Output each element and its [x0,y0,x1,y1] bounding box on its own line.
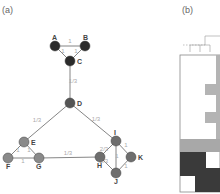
matrix-block [180,139,220,152]
edge-weight-label: 1/3 [33,117,42,123]
node-label-B: B [83,34,88,41]
node-A [50,41,60,51]
node-I [111,136,121,146]
node-label-E: E [31,139,36,146]
edge-weight-label: 1/3 [92,116,101,122]
node-K [126,152,136,162]
edge-weight-label: 1 [16,147,20,153]
node-B [80,41,90,51]
edge-weight-label: 1 [68,38,72,44]
edge-weight-label: 2/3 [100,146,109,152]
network-graph: 1111/31/31/31111/32/32/3111 ABCDEFGIHKJ [0,0,220,194]
dendrogram [183,36,220,52]
edge-weight-label: 1 [115,153,119,159]
node-J [111,168,121,178]
node-label-C: C [77,58,82,65]
edge-weight-label: 1 [27,147,31,153]
node-label-A: A [52,34,57,41]
node-E [19,137,29,147]
node-C [65,56,75,66]
edge-weight-label: 1 [124,142,128,148]
edge-D-I [70,103,116,141]
node-F [3,153,13,163]
adjacency-matrix [180,55,220,192]
node-H [95,152,105,162]
edge-weight-label: 1 [61,48,65,54]
edge-weight-label: 1 [124,163,128,169]
edge-weight-label: 1/3 [64,150,73,156]
node-G [34,153,44,163]
node-label-F: F [6,163,11,170]
edge-D-E [24,103,70,142]
matrix-block [216,55,220,139]
node-D [65,98,75,108]
node-label-J: J [114,178,118,185]
node-label-K: K [138,154,143,161]
edge-weight-label: 1 [21,158,25,164]
edge-G-H [39,157,100,158]
node-label-G: G [36,163,42,170]
node-label-H: H [97,162,102,169]
node-label-I: I [114,129,116,136]
edge-weight-label: 1/3 [69,78,78,84]
matrix-block [195,168,220,192]
node-label-D: D [77,100,82,107]
